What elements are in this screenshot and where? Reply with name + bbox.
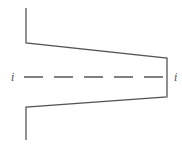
label-right-i: i bbox=[174, 71, 178, 84]
label-left-i: i bbox=[11, 71, 15, 84]
taper-diagram: i i bbox=[0, 0, 182, 148]
channel-outline bbox=[26, 8, 167, 140]
diagram-canvas: i i bbox=[0, 0, 182, 148]
